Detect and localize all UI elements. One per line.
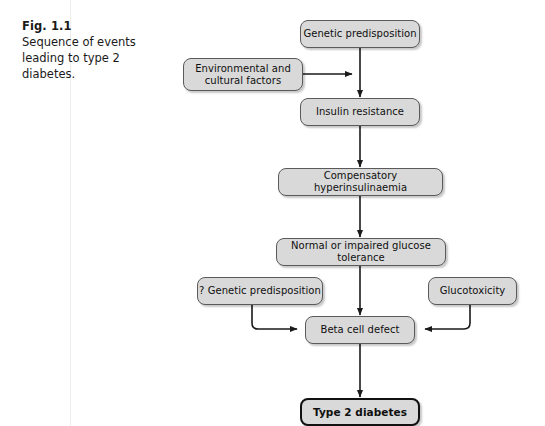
node-label: ? Genetic predisposition xyxy=(199,285,321,297)
node-label: Normal or impaired glucose tolerance xyxy=(277,240,445,264)
node-label-line2: cultural factors xyxy=(205,75,281,87)
node-query-genetic-predisposition[interactable]: ? Genetic predisposition xyxy=(197,277,323,305)
node-environmental-factors[interactable]: Environmental and cultural factors xyxy=(183,58,303,91)
node-label: Glucotoxicity xyxy=(440,285,506,297)
node-beta-cell-defect[interactable]: Beta cell defect xyxy=(305,316,415,344)
flowchart: Genetic predisposition Environmental and… xyxy=(0,0,545,426)
node-label: Genetic predisposition xyxy=(303,28,416,40)
node-compensatory-hyperinsulinaemia[interactable]: Compensatory hyperinsulinaemia xyxy=(278,168,443,196)
node-type-2-diabetes[interactable]: Type 2 diabetes xyxy=(300,398,420,426)
figure-page: Fig. 1.1 Sequence of events leading to t… xyxy=(0,0,545,426)
edge-glucotoxicity-to-beta-cell xyxy=(425,305,470,329)
node-label: Type 2 diabetes xyxy=(313,406,407,418)
node-glucotoxicity[interactable]: Glucotoxicity xyxy=(428,277,517,305)
node-label: Beta cell defect xyxy=(320,324,399,336)
node-label: Insulin resistance xyxy=(316,106,404,118)
edge-query-genetic-to-beta-cell xyxy=(252,305,297,329)
node-insulin-resistance[interactable]: Insulin resistance xyxy=(300,98,420,126)
node-label-line1: Environmental and xyxy=(195,63,291,75)
node-genetic-predisposition[interactable]: Genetic predisposition xyxy=(300,20,420,48)
node-glucose-tolerance[interactable]: Normal or impaired glucose tolerance xyxy=(276,238,446,266)
node-label: Compensatory hyperinsulinaemia xyxy=(279,170,442,194)
